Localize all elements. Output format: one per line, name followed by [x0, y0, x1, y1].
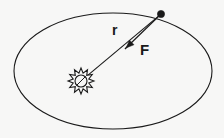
- radius-label: r: [112, 23, 117, 37]
- planet-dot: [157, 10, 164, 17]
- diagram-canvas: [0, 0, 224, 138]
- orbit-diagram: r F: [0, 0, 224, 138]
- sun-symbol: [68, 68, 94, 94]
- force-label: F: [140, 42, 149, 57]
